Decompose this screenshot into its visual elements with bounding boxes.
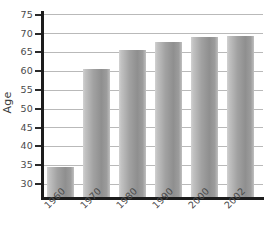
plot-area [44,14,263,198]
y-tick-label: 75 [13,10,33,20]
y-tick-label: 60 [13,66,33,76]
y-tick-label: 70 [13,29,33,39]
y-tick-label: 40 [13,141,33,151]
y-tick-label: 35 [13,160,33,170]
bar-chart: Age 75 70 65 60 55 50 45 40 35 30 [0,0,272,243]
gridline [44,14,263,15]
y-axis-tick-labels: 75 70 65 60 55 50 45 40 35 30 [8,0,33,243]
y-tick-label: 55 [13,85,33,95]
y-axis-line [41,11,44,200]
y-tick-label: 45 [13,123,33,133]
y-tick-label: 65 [13,47,33,57]
gridline [44,33,263,34]
y-tick-label: 30 [13,179,33,189]
y-tick-label: 50 [13,104,33,114]
